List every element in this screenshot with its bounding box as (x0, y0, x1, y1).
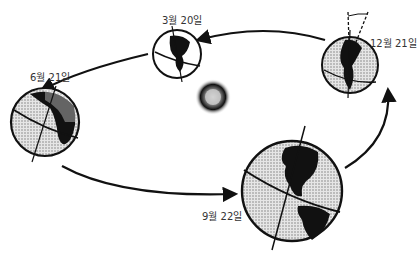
earth-globe-september (242, 126, 342, 250)
earth-globe-june (11, 86, 79, 162)
date-label-june: 6월 21일 (30, 69, 70, 84)
arrow-jun-to-sep (62, 166, 235, 194)
arrow-dec-to-mar (198, 31, 325, 40)
earth-globe-march (153, 26, 201, 82)
axis-tilt-line (356, 12, 368, 42)
earth-globe-december (322, 12, 378, 98)
tilt-angle-arc (348, 14, 368, 16)
sun-icon (195, 79, 231, 115)
date-label-december: 12월 21일 (370, 35, 417, 50)
date-label-march: 3월 20일 (162, 12, 202, 27)
arrow-sep-to-dec (345, 90, 388, 168)
date-label-september: 9월 22일 (202, 208, 242, 223)
